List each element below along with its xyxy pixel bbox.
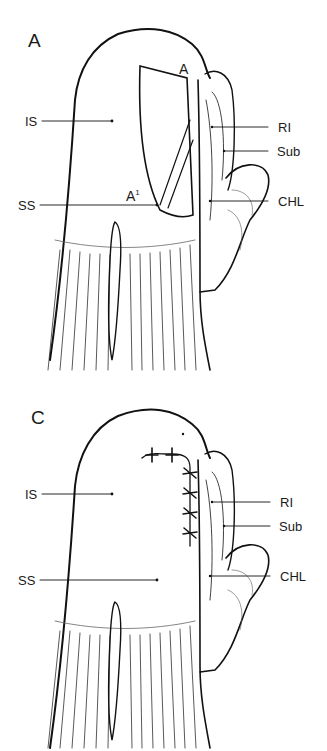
panel-letter-c: C [31,408,45,427]
label-ss: SS [18,199,35,212]
point-a-label: A [179,63,188,76]
label-ss: SS [18,574,35,587]
label-ri: RI [280,496,293,509]
panel-letter-a: A [28,31,41,50]
point-a1-base: A [126,188,135,204]
label-chl: CHL [278,195,304,208]
point-a1-label: A1 [126,186,140,203]
label-chl: CHL [280,570,306,583]
panel-a: A A A1 IS SS RI Sub CHL [0,0,327,375]
rotator-cuff-illustration-c [0,376,327,751]
label-sub: Sub [277,145,300,158]
label-is: IS [25,115,37,128]
point-a1-superscript: 1 [135,188,139,197]
label-sub: Sub [279,520,302,533]
label-is: IS [25,488,37,501]
panel-c: C IS SS RI Sub CHL [0,376,327,751]
rotator-cuff-illustration-a [0,0,327,375]
label-ri: RI [278,121,291,134]
